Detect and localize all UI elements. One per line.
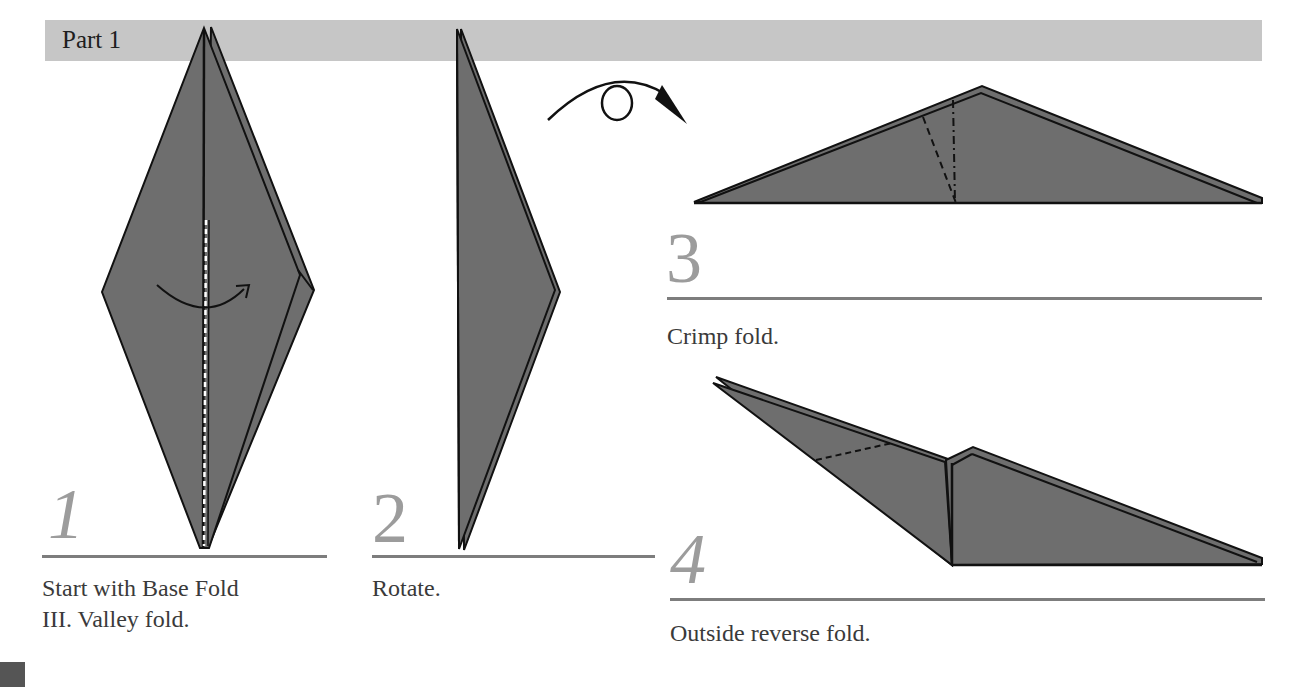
- step1-diagram: [102, 27, 314, 548]
- step1-caption-line2: III. Valley fold.: [42, 604, 332, 635]
- step4-diagram: [713, 377, 1262, 565]
- step2-rule: [372, 555, 655, 558]
- page-corner-marker: [0, 662, 25, 687]
- step4-caption: Outside reverse fold.: [670, 618, 871, 649]
- step-number-3: 3: [666, 222, 702, 294]
- step1-caption: Start with Base Fold III. Valley fold.: [42, 573, 332, 635]
- step1-rule: [42, 555, 327, 558]
- step-number-2: 2: [372, 482, 408, 554]
- rotate-loop-arrow-icon: [548, 82, 687, 124]
- step2-caption: Rotate.: [372, 573, 441, 604]
- step3-rule: [667, 297, 1262, 300]
- step4-rule: [670, 598, 1265, 601]
- step-number-4: 4: [670, 523, 706, 595]
- step3-caption: Crimp fold.: [667, 321, 779, 352]
- step3-diagram: [694, 86, 1262, 203]
- step-number-1: 1: [48, 478, 84, 550]
- step2-diagram: [457, 29, 560, 550]
- step1-caption-line1: Start with Base Fold: [42, 573, 332, 604]
